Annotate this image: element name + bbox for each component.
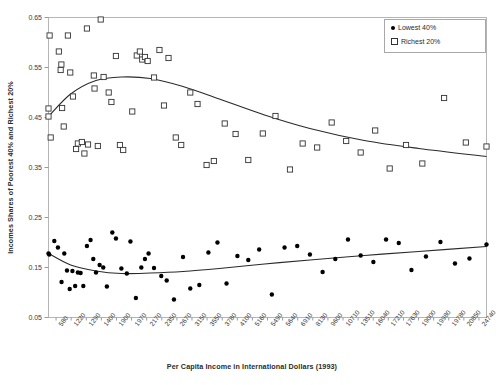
y-tick-label: 0.05 bbox=[6, 314, 42, 321]
scatter-chart: Incomes Shares of Poorest 40% and Riches… bbox=[0, 0, 504, 385]
legend-item-richest-20: Richest 20% bbox=[391, 38, 440, 45]
filled-circle-icon bbox=[391, 26, 395, 30]
legend-item-lowest-40: Lowest 40% bbox=[391, 24, 436, 31]
chart-background bbox=[0, 0, 504, 385]
open-square-icon bbox=[391, 38, 398, 45]
y-tick-label: 0.15 bbox=[6, 264, 42, 271]
legend-label-richest-20: Richest 20% bbox=[401, 38, 440, 45]
y-tick-label: 0.35 bbox=[6, 164, 42, 171]
y-tick-label: 0.65 bbox=[6, 14, 42, 21]
y-tick-label: 0.25 bbox=[6, 214, 42, 221]
legend: Lowest 40% Richest 20% bbox=[384, 19, 486, 53]
legend-label-lowest-40: Lowest 40% bbox=[398, 24, 436, 31]
y-tick-label: 0.45 bbox=[6, 114, 42, 121]
y-tick-label: 0.55 bbox=[6, 64, 42, 71]
plot-canvas bbox=[0, 0, 504, 385]
x-axis-title: Per Capita Income in International Dolla… bbox=[0, 362, 504, 371]
